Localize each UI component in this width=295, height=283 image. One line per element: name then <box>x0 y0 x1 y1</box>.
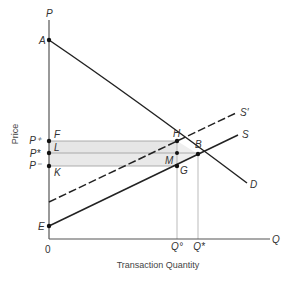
label-d: D <box>250 179 257 190</box>
label-p-plus: P⁺ <box>29 135 42 146</box>
label-q-circle: Q° <box>171 241 183 252</box>
label-k: K <box>54 167 62 178</box>
x-axis-symbol: Q <box>272 234 280 245</box>
point-l <box>47 151 51 155</box>
point-e <box>47 224 51 228</box>
point-m <box>175 151 179 155</box>
tax-incidence-diagram: P Q 0 Price Transaction Quantity A E F L… <box>0 0 295 283</box>
point-a <box>47 38 51 42</box>
label-m: M <box>165 155 174 166</box>
label-f: F <box>54 129 61 140</box>
point-g <box>175 164 179 168</box>
label-g: G <box>180 165 188 176</box>
point-h <box>175 139 179 143</box>
label-p-star: P* <box>30 148 42 159</box>
shaded-area-upper <box>49 141 177 153</box>
point-b <box>196 152 200 156</box>
x-axis-title: Transaction Quantity <box>117 260 200 270</box>
y-axis-symbol: P <box>46 8 53 19</box>
label-e: E <box>38 221 45 232</box>
label-p-minus: P⁻ <box>29 160 42 171</box>
label-s-prime: S′ <box>240 107 250 118</box>
y-axis-title: Price <box>10 124 20 145</box>
label-a: A <box>38 35 46 46</box>
origin-label: 0 <box>45 244 51 255</box>
shaded-area-lower <box>49 153 177 166</box>
label-h: H <box>173 128 181 139</box>
point-k <box>47 164 51 168</box>
label-q-star: Q* <box>193 241 206 252</box>
point-f <box>47 139 51 143</box>
label-b: B <box>195 139 202 150</box>
label-s: S <box>242 129 249 140</box>
label-l: L <box>54 142 60 153</box>
